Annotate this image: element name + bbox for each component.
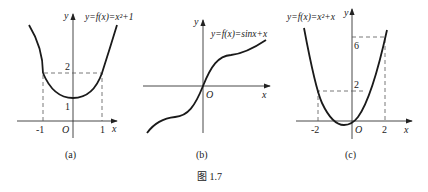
panel-label: (c) [345, 149, 356, 161]
curve-sinx-plus-x [147, 40, 266, 133]
function-label: y=f(x)=x²+1 [84, 12, 133, 23]
function-label: y=f(x)=sinx+x [210, 29, 268, 40]
panel-label: (b) [196, 149, 208, 161]
x-axis-label: x [261, 89, 267, 100]
tick-y-2: 2 [65, 61, 70, 72]
tick-x-2: 2 [382, 124, 387, 135]
figure-canvas: y x O -1 1 1 2 y=f(x)=x²+1 (a) y x O y=f… [0, 0, 428, 192]
origin-label: O [62, 124, 69, 135]
panel-c: y x O -2 2 2 6 y=f(x)=x²+x (c) [286, 7, 412, 161]
tick-y-6: 6 [354, 40, 359, 51]
figure-caption: 图 1.7 [197, 171, 222, 182]
origin-label: O [355, 124, 362, 135]
origin-label: O [206, 89, 213, 100]
y-axis-label: y [343, 7, 349, 18]
guide-lines [43, 73, 102, 121]
tick-x-neg1: -1 [36, 124, 44, 135]
x-axis-label: x [111, 123, 117, 134]
tick-y-2: 2 [354, 79, 359, 90]
y-axis-label: y [193, 16, 199, 27]
tick-y-1: 1 [65, 101, 70, 112]
panel-label: (a) [65, 149, 76, 161]
x-axis-label: x [403, 124, 409, 135]
function-label: y=f(x)=x²+x [286, 12, 336, 23]
y-axis-label: y [63, 10, 69, 21]
panel-a: y x O -1 1 1 2 y=f(x)=x²+1 (a) [17, 10, 133, 161]
tick-x-1: 1 [100, 124, 105, 135]
tick-x-neg2: -2 [311, 124, 319, 135]
panel-b: y x O y=f(x)=sinx+x (b) [143, 16, 270, 161]
curve-x2-plus-x [304, 28, 387, 125]
